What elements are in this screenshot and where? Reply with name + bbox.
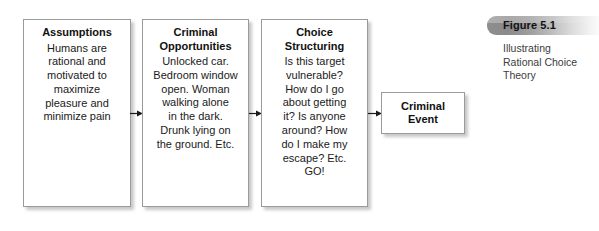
flow-box-criminal-opportunities-body: Unlocked car. Bedroom window open. Woman… — [147, 55, 244, 152]
arrow-right-icon-choice-to-event — [368, 109, 382, 118]
flow-box-criminal-event: Criminal Event — [381, 92, 465, 134]
flow-box-choice-structuring: Choice Structuring Is this target vulner… — [261, 19, 368, 207]
flow-box-choice-structuring-body: Is this target vulnerable? How do I go a… — [266, 55, 363, 179]
flow-box-assumptions: Assumptions Humans are rational and moti… — [23, 19, 131, 207]
figure-number-label: Figure 5.1 — [503, 19, 556, 32]
flow-box-choice-structuring-title: Choice Structuring — [266, 26, 363, 53]
figure-caption-text: Illustrating Rational Choice Theory — [503, 42, 599, 83]
figure-caption-block: Figure 5.1 Illustrating Rational Choice … — [487, 16, 599, 83]
flow-box-criminal-opportunities-title: Criminal Opportunities — [147, 26, 244, 53]
flow-box-assumptions-body: Humans are rational and motivated to max… — [28, 42, 126, 125]
flow-box-assumptions-title: Assumptions — [28, 26, 126, 40]
figure-canvas: Assumptions Humans are rational and moti… — [0, 0, 599, 231]
flow-box-criminal-event-title: Criminal Event — [401, 100, 445, 127]
figure-caption-bar: Figure 5.1 — [487, 16, 599, 35]
flow-box-criminal-opportunities: Criminal Opportunities Unlocked car. Bed… — [142, 19, 249, 207]
